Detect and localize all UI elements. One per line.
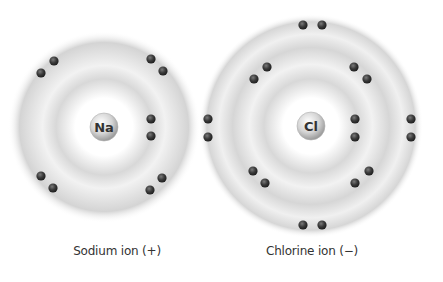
electron — [146, 54, 155, 63]
electron — [406, 132, 415, 141]
electron — [249, 74, 258, 83]
chlorine-ion-label: Chlorine ion (−) — [266, 244, 358, 258]
electron — [349, 62, 358, 71]
chlorine-nucleus: Cl — [297, 112, 325, 140]
electron — [145, 185, 154, 194]
electron — [362, 74, 371, 83]
element-symbol: Na — [94, 120, 114, 135]
electron — [48, 183, 57, 192]
element-symbol: Cl — [304, 119, 318, 134]
electron — [350, 132, 359, 141]
electron — [158, 66, 167, 75]
electron — [146, 131, 155, 140]
electron — [350, 114, 359, 123]
electron — [406, 114, 415, 123]
chlorine-ion: Cl — [199, 14, 423, 238]
electron — [317, 220, 326, 229]
ionic-bond-diagram: NaCl Sodium ion (+)Chlorine ion (−) — [0, 0, 443, 282]
electron — [298, 220, 307, 229]
electron — [260, 178, 269, 187]
electron — [36, 68, 45, 77]
electron — [248, 166, 257, 175]
electron — [298, 20, 307, 29]
electron — [157, 173, 166, 182]
electron — [262, 62, 271, 71]
electron — [317, 20, 326, 29]
electron — [36, 171, 45, 180]
sodium-nucleus: Na — [90, 113, 118, 141]
sodium-ion-label: Sodium ion (+) — [73, 244, 161, 258]
diagram-canvas: NaCl — [0, 0, 443, 282]
electron — [203, 132, 212, 141]
sodium-ion: Na — [8, 31, 200, 223]
electron — [49, 56, 58, 65]
electron — [203, 114, 212, 123]
electron — [350, 178, 359, 187]
electron — [364, 166, 373, 175]
electron — [146, 114, 155, 123]
